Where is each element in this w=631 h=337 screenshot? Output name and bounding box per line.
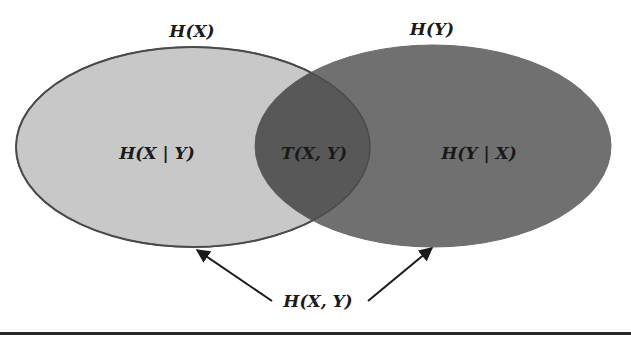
arrow-right-icon xyxy=(368,248,432,301)
mutual-information-label: T(X, Y) xyxy=(281,143,347,163)
conditional-entropy-y-given-x-label: H(Y | X) xyxy=(440,143,517,163)
bottom-rule-divider xyxy=(0,332,631,335)
set-y-label: H(Y) xyxy=(409,19,454,39)
venn-diagram: H(X) H(Y) H(X | Y) T(X, Y) H(Y | X) H(X,… xyxy=(0,0,631,337)
arrow-left-icon xyxy=(197,250,272,301)
conditional-entropy-x-given-y-label: H(X | Y) xyxy=(118,143,195,163)
set-x-label: H(X) xyxy=(168,21,214,41)
joint-entropy-label: H(X, Y) xyxy=(282,291,352,311)
